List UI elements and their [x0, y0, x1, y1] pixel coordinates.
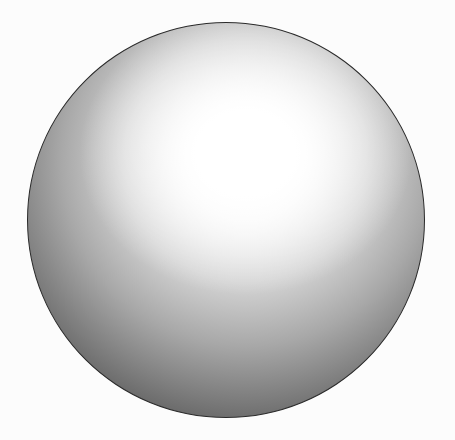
- shaded-sphere: [27, 22, 425, 418]
